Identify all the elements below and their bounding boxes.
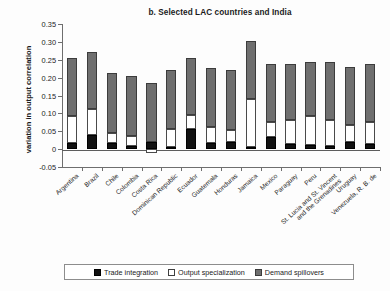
y-tick-label: 0.25 xyxy=(26,56,56,65)
bar-segment-trade-integration xyxy=(266,137,276,150)
bar-segment-trade-integration xyxy=(107,143,117,149)
bar-segment-demand-spillovers xyxy=(186,58,196,115)
legend-swatch-trade xyxy=(94,269,101,276)
bar-segment-trade-integration xyxy=(305,145,315,149)
y-tick-label: 0.05 xyxy=(26,127,56,136)
bar-segment-output-specialization xyxy=(285,120,295,144)
plot-area: -0.0500.050.100.150.200.250.300.35 xyxy=(62,24,380,167)
y-tick-mark xyxy=(58,131,62,132)
y-tick-mark xyxy=(58,60,62,61)
y-tick-label: 0.30 xyxy=(26,38,56,47)
bar-segment-demand-spillovers xyxy=(365,64,375,122)
y-tick-mark xyxy=(58,96,62,97)
bar-segment-demand-spillovers xyxy=(107,73,117,133)
y-tick-mark xyxy=(58,24,62,25)
bar-segment-output-specialization xyxy=(87,109,97,135)
bar-segment-trade-integration xyxy=(285,144,295,149)
y-tick-mark xyxy=(58,78,62,79)
bar-segment-demand-spillovers xyxy=(325,62,335,121)
y-tick-label: 0.15 xyxy=(26,92,56,101)
legend-item[interactable]: Trade integration xyxy=(94,268,158,277)
bar-segment-output-specialization xyxy=(305,116,315,146)
legend-label: Demand spillovers xyxy=(265,268,324,277)
y-tick-mark xyxy=(58,167,62,168)
bar-group[interactable] xyxy=(62,24,380,167)
bar-segment-trade-integration xyxy=(146,142,156,150)
legend-label: Trade integration xyxy=(104,268,158,277)
bar-segment-demand-spillovers xyxy=(266,64,276,122)
bar-segment-output-specialization xyxy=(226,130,236,141)
chart-legend: Trade integrationOutput specializationDe… xyxy=(64,264,354,280)
bar-segment-demand-spillovers xyxy=(87,52,97,110)
y-tick-label: 0.20 xyxy=(26,74,56,83)
bar-segment-trade-integration xyxy=(246,147,256,149)
chart-title: b. Selected LAC countries and India xyxy=(70,8,370,17)
bar-segment-demand-spillovers xyxy=(67,58,77,116)
bar-group[interactable] xyxy=(62,24,380,167)
bar-segment-trade-integration xyxy=(126,146,136,149)
bar-segment-output-specialization xyxy=(67,116,77,143)
bar-group[interactable] xyxy=(62,24,380,167)
bar-segment-output-specialization xyxy=(166,129,176,148)
bar-group[interactable] xyxy=(62,24,380,167)
bar-group[interactable] xyxy=(62,24,380,167)
y-tick-mark xyxy=(58,113,62,114)
y-tick-label: -0.05 xyxy=(26,163,56,172)
bar-segment-demand-spillovers xyxy=(285,64,295,120)
y-axis-spine xyxy=(62,24,63,167)
legend-swatch-demand xyxy=(255,269,262,276)
legend-item[interactable]: Demand spillovers xyxy=(255,268,324,277)
bar-group[interactable] xyxy=(62,24,380,167)
bar-segment-trade-integration xyxy=(166,147,176,149)
bar-segment-demand-spillovers xyxy=(305,62,315,116)
y-tick-label: 0.10 xyxy=(26,109,56,118)
bar-group[interactable] xyxy=(62,24,380,167)
bar-segment-demand-spillovers xyxy=(166,70,176,128)
bar-segment-trade-integration xyxy=(345,142,355,150)
bar-segment-output-specialization xyxy=(246,99,256,147)
bar-group[interactable] xyxy=(62,24,380,167)
bar-group[interactable] xyxy=(62,24,380,167)
chart-figure: b. Selected LAC countries and India vari… xyxy=(0,0,390,291)
bar-segment-output-specialization xyxy=(325,120,335,146)
zero-baseline xyxy=(62,150,380,151)
legend-label: Output specialization xyxy=(178,268,245,277)
bar-group[interactable] xyxy=(62,24,380,167)
bar-segment-demand-spillovers xyxy=(345,67,355,126)
y-tick-mark xyxy=(58,42,62,43)
bar-segment-trade-integration xyxy=(186,129,196,149)
y-tick-label: 0.35 xyxy=(26,20,56,29)
bar-segment-output-specialization xyxy=(126,136,136,146)
bar-segment-output-specialization xyxy=(107,133,117,143)
legend-swatch-output xyxy=(168,269,175,276)
bar-segment-trade-integration xyxy=(226,142,236,150)
bar-segment-trade-integration xyxy=(67,143,77,149)
bar-group[interactable] xyxy=(62,24,380,167)
bar-segment-demand-spillovers xyxy=(206,68,216,126)
bar-segment-demand-spillovers xyxy=(226,70,236,130)
bar-segment-output-specialization xyxy=(266,122,276,137)
bar-group[interactable] xyxy=(62,24,380,167)
bar-segment-trade-integration xyxy=(87,135,97,149)
bar-segment-demand-spillovers xyxy=(146,83,156,142)
bar-segment-output-specialization xyxy=(186,115,196,129)
bar-segment-demand-spillovers xyxy=(246,41,256,100)
bar-group[interactable] xyxy=(62,24,380,167)
bar-segment-output-specialization xyxy=(345,125,355,141)
bar-group[interactable] xyxy=(62,24,380,167)
legend-item[interactable]: Output specialization xyxy=(168,268,245,277)
bar-group[interactable] xyxy=(62,24,380,167)
bar-segment-trade-integration xyxy=(325,146,335,149)
y-tick-mark xyxy=(58,149,62,150)
bar-segment-demand-spillovers xyxy=(126,76,136,136)
y-tick-label: 0 xyxy=(26,145,56,154)
bar-group[interactable] xyxy=(62,24,380,167)
